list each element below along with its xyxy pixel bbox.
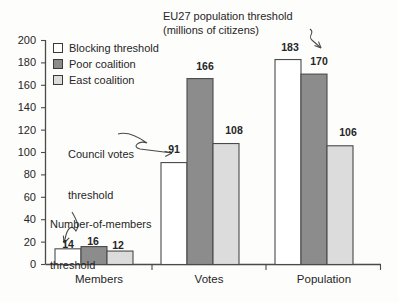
legend-item-poor-coalition: Poor coalition xyxy=(53,57,159,72)
y-tick-label: 0 xyxy=(8,258,36,270)
annotation-line: (millions of citizens) xyxy=(163,24,293,38)
chart-legend: Blocking threshold Poor coalition East c… xyxy=(53,41,159,89)
y-tick-marks xyxy=(41,41,46,265)
y-tick-label: 60 xyxy=(8,191,36,203)
value-label: 183 xyxy=(275,42,305,54)
annotation-line: threshold xyxy=(50,259,151,273)
bar xyxy=(187,79,213,265)
y-tick-label: 120 xyxy=(8,124,36,136)
bar xyxy=(327,146,353,265)
x-category-label-votes: Votes xyxy=(172,273,246,286)
legend-label: Blocking threshold xyxy=(69,42,159,54)
legend-swatch-east-coalition xyxy=(53,75,63,85)
annotation-line: Council votes xyxy=(68,148,134,162)
legend-label: East coalition xyxy=(69,74,134,86)
annotation-line: EU27 population threshold xyxy=(163,10,293,24)
bar xyxy=(301,74,327,264)
y-tick-label: 20 xyxy=(8,236,36,248)
bar xyxy=(275,60,301,265)
legend-item-east-coalition: East coalition xyxy=(53,73,159,88)
x-category-label-population: Population xyxy=(284,273,364,286)
y-tick-label: 100 xyxy=(8,146,36,158)
annotation-population-threshold: EU27 population threshold (millions of c… xyxy=(163,10,293,38)
legend-swatch-poor-coalition xyxy=(53,59,63,69)
x-tick-marks xyxy=(152,265,381,271)
y-tick-label: 40 xyxy=(8,213,36,225)
legend-label: Poor coalition xyxy=(69,58,136,70)
bar xyxy=(213,144,239,265)
value-label: 91 xyxy=(161,144,187,156)
bar xyxy=(161,163,187,265)
bar-chart: 200 180 160 140 120 100 80 60 40 20 0 Me… xyxy=(0,0,398,302)
y-tick-label: 200 xyxy=(8,34,36,46)
value-label: 106 xyxy=(333,127,363,139)
value-label: 170 xyxy=(304,56,334,68)
y-tick-label: 160 xyxy=(8,79,36,91)
y-tick-label: 140 xyxy=(8,101,36,113)
annotation-line: Number-of-members xyxy=(50,218,151,232)
legend-swatch-blocking-threshold xyxy=(53,43,63,53)
legend-item-blocking-threshold: Blocking threshold xyxy=(53,41,159,56)
y-tick-label: 180 xyxy=(8,56,36,68)
value-label: 166 xyxy=(190,61,220,73)
y-tick-label: 80 xyxy=(8,168,36,180)
annotation-number-of-members-threshold: Number-of-members threshold xyxy=(50,190,151,300)
value-label: 108 xyxy=(219,125,249,137)
